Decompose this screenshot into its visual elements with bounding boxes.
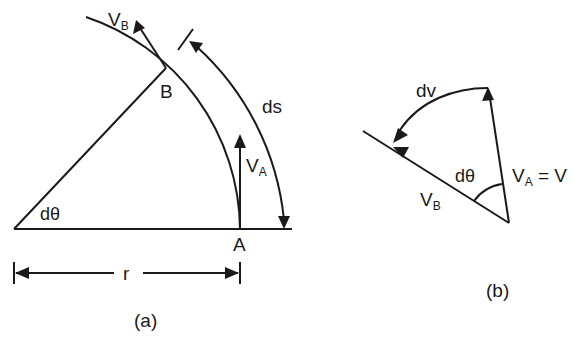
label-vb: VB xyxy=(108,9,129,33)
path-arc xyxy=(86,17,240,229)
r-left-arrowhead xyxy=(15,267,29,279)
panel-b: dv dθ VA = V VB (b) xyxy=(363,80,567,301)
label-point-a: A xyxy=(233,234,246,255)
dv-arc xyxy=(400,88,488,130)
label-va: VA xyxy=(246,155,267,179)
label-va-equals-v: VA = V xyxy=(512,165,567,189)
dv-arrowhead xyxy=(393,128,408,143)
va-vector-arrowhead xyxy=(482,87,494,101)
va-arrowhead xyxy=(234,134,246,148)
caption-b: (b) xyxy=(486,280,509,301)
dtheta-angle-arc xyxy=(474,184,502,201)
r-right-arrowhead xyxy=(225,267,239,279)
velocity-diagram: VB B ds VA dθ A r (a) dv dθ VA = V VB (b… xyxy=(0,0,572,345)
label-dtheta-b: dθ xyxy=(455,166,475,186)
ds-tick-mark xyxy=(178,29,193,50)
label-point-b: B xyxy=(160,81,173,102)
vb-arrow-shaft xyxy=(140,28,166,68)
label-r: r xyxy=(123,263,130,284)
label-vb-b: VB xyxy=(420,189,441,213)
caption-a: (a) xyxy=(134,310,157,331)
label-ds: ds xyxy=(262,96,282,117)
label-dv: dv xyxy=(416,80,437,101)
ds-arrowhead-bottom xyxy=(278,216,290,229)
panel-a: VB B ds VA dθ A r (a) xyxy=(14,9,292,331)
va-vector-shaft xyxy=(490,98,509,223)
label-dtheta-a: dθ xyxy=(40,204,60,224)
radius-line-ob xyxy=(14,68,166,229)
